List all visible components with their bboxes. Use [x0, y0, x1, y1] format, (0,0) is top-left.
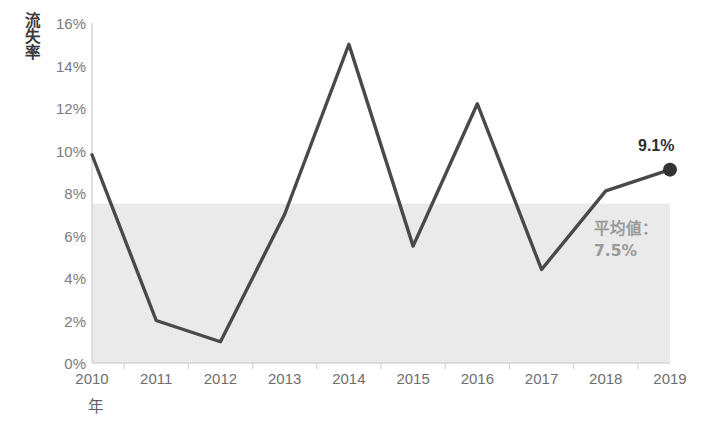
- mean-band-group: [92, 204, 670, 363]
- mean-shaded-band: [92, 204, 670, 363]
- last-point-marker: [663, 163, 677, 177]
- x-axis-tick-marks: [124, 363, 638, 369]
- last-point-data-label: 9.1%: [638, 137, 674, 155]
- line-chart-plot: [0, 0, 701, 429]
- chart-canvas: 流失率 0%2%4%6%8%10%12%14%16% 2010201120122…: [0, 0, 701, 429]
